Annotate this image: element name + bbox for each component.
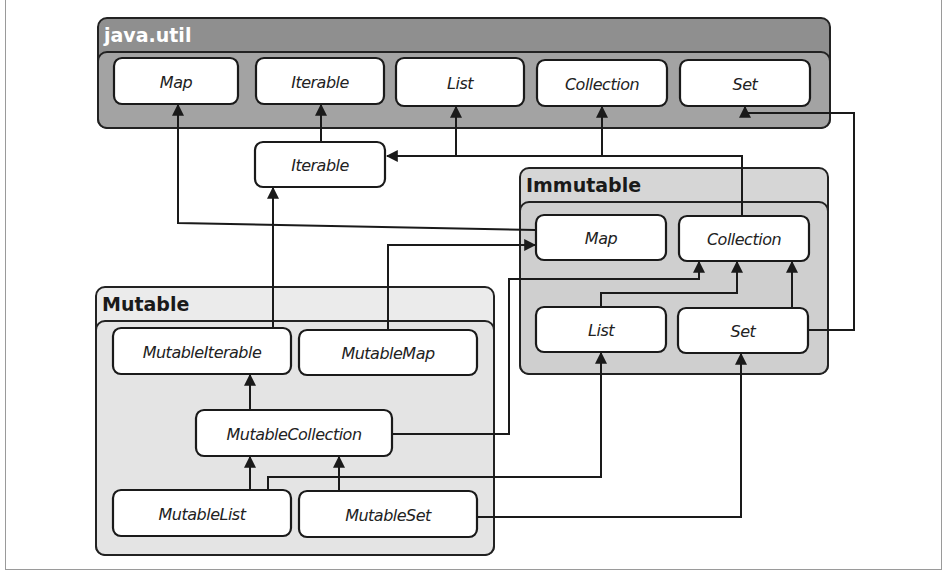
node-label: List [447, 74, 474, 93]
node-im-set: Set [678, 308, 808, 353]
node-mutable-set: MutableSet [299, 491, 477, 537]
node-ju-collection: Collection [537, 60, 667, 106]
node-label: MutableMap [341, 344, 435, 363]
class-diagram: java.utilImmutableMutable MapIterableLis… [0, 0, 946, 578]
node-ju-iterable: Iterable [256, 58, 384, 104]
group-title: java.util [103, 24, 191, 46]
node-ju-list: List [396, 58, 524, 106]
node-mutable-iterable: MutableIterable [113, 328, 291, 374]
node-label: Iterable [291, 73, 349, 92]
edge-mutable-set-to-im-set [477, 354, 741, 517]
node-label: MutableList [159, 505, 247, 524]
group-title: Mutable [102, 293, 189, 315]
node-mutable-list: MutableList [113, 490, 291, 536]
node-mutable-map: MutableMap [299, 330, 477, 375]
node-label: Collection [707, 230, 782, 249]
node-im-collection: Collection [679, 216, 809, 261]
group-title: Immutable [526, 174, 641, 196]
node-label: MutableCollection [226, 425, 361, 444]
node-label: Set [733, 75, 759, 94]
node-mutable-collection: MutableCollection [196, 410, 392, 456]
node-label: Collection [565, 75, 640, 94]
node-im-list: List [536, 307, 666, 352]
node-ju-set: Set [680, 60, 810, 106]
node-label: List [588, 321, 615, 340]
node-label: MutableIterable [143, 343, 262, 362]
node-im-map: Map [536, 215, 666, 260]
node-label: MutableSet [345, 506, 432, 525]
node-label: Map [160, 73, 193, 92]
node-label: Map [585, 229, 618, 248]
node-label: Iterable [291, 156, 349, 175]
node-label: Set [731, 322, 757, 341]
node-ju-map: Map [114, 58, 238, 104]
node-iterable: Iterable [255, 142, 385, 187]
